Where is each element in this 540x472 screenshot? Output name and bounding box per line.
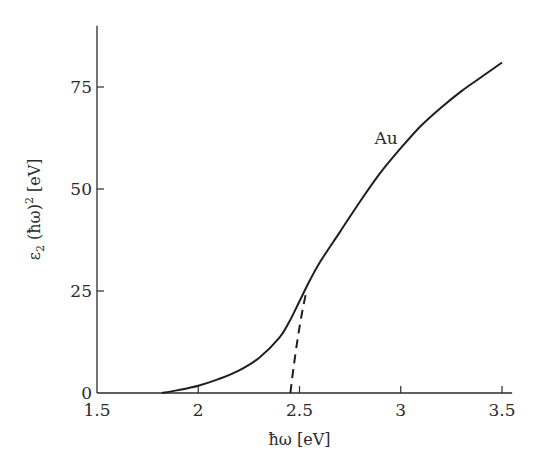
- y-label-sup: 2: [23, 197, 36, 204]
- y-tick-label: 0: [81, 383, 92, 403]
- chart: 1.522.533.5 0255075 Au ħω [eV] ε2 (ħω)2 …: [0, 0, 540, 472]
- y-tick-label: 50: [70, 179, 92, 199]
- y-label-end: [eV]: [25, 158, 44, 197]
- series-layer: [162, 63, 502, 393]
- x-tick-label: 3.5: [488, 400, 515, 420]
- y-label-base: ε: [25, 252, 44, 260]
- annotations: Au: [373, 128, 397, 148]
- annotation-au: Au: [373, 128, 397, 148]
- axes: [97, 26, 512, 393]
- x-tick-label: 1.5: [83, 400, 110, 420]
- x-tick-label: 2: [193, 400, 204, 420]
- y-label-mid: (ħω): [25, 204, 44, 245]
- y-tick-label: 25: [70, 281, 92, 301]
- y-axis-label: ε2 (ħω)2 [eV]: [23, 158, 47, 260]
- x-tick-label: 2.5: [286, 400, 313, 420]
- y-label-sub: 2: [34, 245, 47, 252]
- series-au-line: [162, 63, 502, 393]
- x-axis-label: ħω [eV]: [269, 430, 331, 449]
- series-au-dashed-line: [290, 295, 305, 393]
- y-tick-label: 75: [70, 77, 92, 97]
- x-tick-label: 3: [395, 400, 406, 420]
- y-ticks: 0255075: [70, 77, 104, 403]
- x-ticks: 1.522.533.5: [83, 386, 515, 420]
